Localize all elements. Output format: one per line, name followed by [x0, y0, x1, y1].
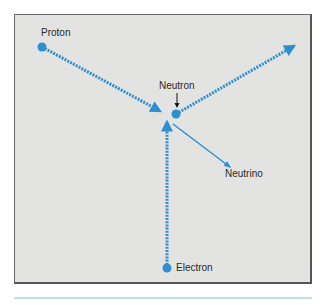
electron-dot: [163, 264, 172, 273]
neutron-label: Neutron: [159, 80, 195, 91]
proton-dot: [38, 43, 47, 52]
bottom-rule: [14, 297, 312, 299]
neutrino-track: [173, 124, 230, 167]
electron-label: Electron: [176, 262, 213, 273]
neutrino-label: Neutrino: [225, 168, 263, 179]
neutron-dot: [172, 110, 181, 119]
particle-diagram: [0, 0, 329, 305]
electron-track: [163, 122, 172, 273]
proton-track: [38, 43, 161, 112]
neutron-pointer-arrow: [175, 103, 180, 108]
proton-label: Proton: [41, 27, 70, 38]
